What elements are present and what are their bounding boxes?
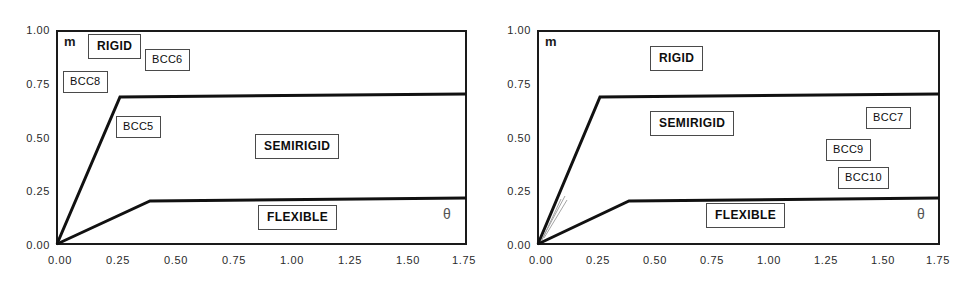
- specimen-label-bcc7: BCC7: [866, 107, 911, 129]
- y-tick-label: 1.00: [8, 24, 50, 36]
- x-tick-label: 0.00: [529, 254, 553, 266]
- x-tick-label: 1.50: [396, 254, 420, 266]
- y-tick-label: 1.00: [489, 24, 531, 36]
- x-tick-label: 1.25: [814, 254, 838, 266]
- y-axis-symbol: m: [545, 34, 557, 49]
- chart-panel-left: 1.00 0.75 0.50 0.25 0.00 0.00 0.25 0.50 …: [0, 0, 481, 288]
- x-tick-label: 0.50: [164, 254, 188, 266]
- y-tick-label: 0.00: [489, 239, 531, 251]
- x-tick-label: 1.25: [338, 254, 362, 266]
- x-tick-label: 0.00: [48, 254, 72, 266]
- y-tick-label: 0.50: [8, 132, 50, 144]
- chart-panel-right: 1.00 0.75 0.50 0.25 0.00 0.00 0.25 0.50 …: [481, 0, 962, 288]
- zone-label-rigid: RIGID: [88, 34, 141, 59]
- zone-label-flexible: FLEXIBLE: [258, 205, 337, 230]
- zone-label-semirigid: SEMIRIGID: [650, 111, 734, 136]
- x-tick-label: 0.50: [643, 254, 667, 266]
- y-tick-label: 0.00: [8, 239, 50, 251]
- x-tick-label: 0.25: [106, 254, 130, 266]
- x-tick-label: 1.00: [757, 254, 781, 266]
- x-tick-label: 0.75: [222, 254, 246, 266]
- y-tick-label: 0.25: [8, 185, 50, 197]
- zone-label-rigid: RIGID: [650, 46, 703, 71]
- y-tick-label: 0.50: [489, 132, 531, 144]
- specimen-label-bcc9: BCC9: [826, 139, 871, 161]
- x-axis-symbol: θ: [443, 206, 451, 222]
- specimen-label-bcc5: BCC5: [116, 116, 161, 138]
- y-axis-symbol: m: [64, 34, 76, 49]
- y-tick-label: 0.75: [8, 78, 50, 90]
- specimen-label-bcc10: BCC10: [838, 167, 889, 189]
- x-axis-symbol: θ: [917, 206, 925, 222]
- connection-classification-figure: 1.00 0.75 0.50 0.25 0.00 0.00 0.25 0.50 …: [0, 0, 962, 288]
- x-tick-label: 1.50: [871, 254, 895, 266]
- y-tick-label: 0.75: [489, 78, 531, 90]
- x-tick-label: 0.25: [586, 254, 610, 266]
- y-tick-label: 0.25: [489, 185, 531, 197]
- specimen-label-bcc8: BCC8: [63, 71, 108, 93]
- x-tick-label: 1.75: [452, 254, 476, 266]
- x-tick-label: 0.75: [700, 254, 724, 266]
- zone-label-flexible: FLEXIBLE: [706, 203, 785, 228]
- specimen-label-bcc6: BCC6: [145, 49, 190, 71]
- x-tick-label: 1.75: [926, 254, 950, 266]
- x-tick-label: 1.00: [280, 254, 304, 266]
- zone-label-semirigid: SEMIRIGID: [255, 134, 339, 159]
